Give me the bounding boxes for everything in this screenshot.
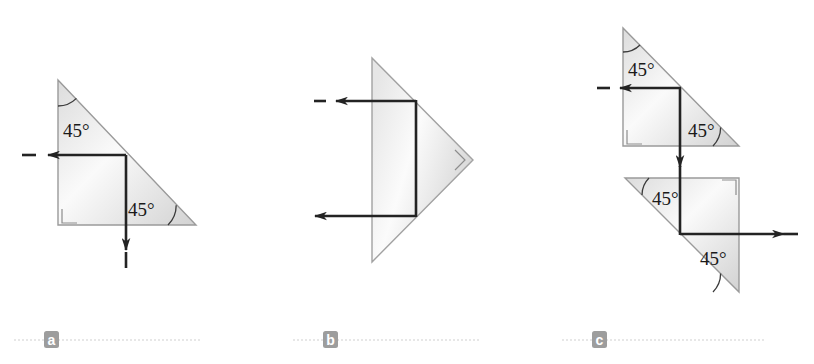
panel-badge-c-label: c [596, 332, 604, 348]
angle-arc-c-4 [713, 274, 721, 292]
angle-label-c-3: 45° [652, 188, 679, 209]
panel-c: 45° 45° 45° 45° [597, 28, 798, 292]
figure-root: 45° 45° 45° 45° [0, 0, 814, 364]
prism-b [372, 58, 473, 262]
panel-badge-a-label: a [48, 332, 56, 348]
panel-badge-b-label: b [326, 332, 335, 348]
angle-label-a-top: 45° [63, 120, 90, 141]
angle-label-c-1: 45° [628, 59, 655, 80]
ray-diagram-canvas: 45° 45° 45° 45° [0, 0, 814, 364]
angle-label-c-4: 45° [700, 248, 727, 269]
caption-row: a b c [14, 331, 766, 348]
angle-label-c-2: 45° [688, 120, 715, 141]
panel-a: 45° 45° [22, 80, 196, 268]
angle-label-a-bottom: 45° [128, 199, 155, 220]
panel-b [314, 58, 473, 262]
